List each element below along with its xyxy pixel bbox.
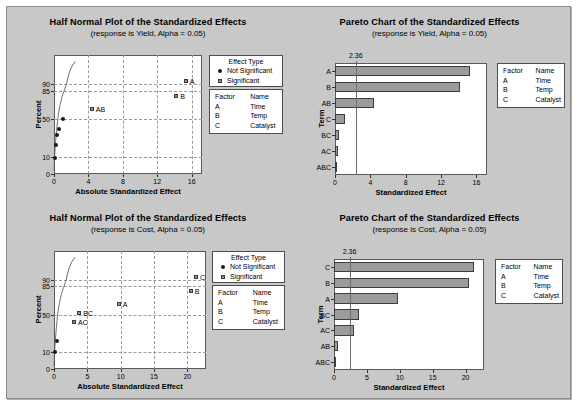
- factor-legend-factor: A: [496, 272, 524, 282]
- data-point-significant[interactable]: [117, 302, 121, 306]
- factor-legend-row: ATime: [498, 76, 564, 86]
- factor-legend-factor: C: [498, 95, 526, 105]
- graph-sheet: Half Normal Plot of the Standardized Eff…: [6, 6, 571, 399]
- bar[interactable]: [335, 98, 374, 109]
- axis-tick-y: [331, 362, 334, 363]
- axis-tick-x: [466, 370, 467, 373]
- data-point-significant[interactable]: [72, 320, 76, 324]
- bar[interactable]: [335, 162, 337, 173]
- bar[interactable]: [335, 114, 345, 125]
- data-point-not-significant[interactable]: [57, 127, 61, 131]
- axis-tick-label-x: 20: [177, 373, 197, 380]
- data-point-not-significant[interactable]: [55, 133, 59, 137]
- axis-tick-label-y: A: [311, 68, 331, 75]
- axis-tick-x: [154, 369, 155, 372]
- data-point-significant[interactable]: [90, 107, 94, 111]
- factor-legend-name: Catalyst: [524, 291, 562, 301]
- factor-legend: FactorNameATimeBTempCCatalyst: [495, 259, 563, 304]
- bar[interactable]: [335, 146, 338, 157]
- data-point-not-significant[interactable]: [55, 339, 59, 343]
- plot-frame: [335, 63, 487, 175]
- factor-legend-row: BTemp: [210, 111, 282, 121]
- data-point-label: B: [180, 92, 185, 99]
- data-point-not-significant[interactable]: [53, 350, 57, 354]
- effect-type-legend: Effect TypeNot SignificantSignificant: [212, 251, 285, 283]
- axis-tick-label-x: 15: [423, 374, 443, 381]
- factor-legend-name: Time: [243, 298, 284, 308]
- bar[interactable]: [334, 341, 338, 351]
- bar[interactable]: [334, 357, 336, 367]
- factor-legend-name: Temp: [243, 307, 284, 317]
- factor-legend-factor: C: [213, 317, 243, 327]
- axis-tick-y: [331, 267, 334, 268]
- factor-legend-name: Catalyst: [526, 95, 564, 105]
- effect-type-legend-label: Not Significant: [227, 262, 275, 271]
- effect-type-legend-row: Significant: [210, 76, 282, 86]
- factor-legend-name: Time: [240, 102, 282, 112]
- factor-legend-row: CCatalyst: [496, 291, 562, 301]
- factor-legend-factor: A: [498, 76, 526, 86]
- axis-tick-label-x: 5: [357, 374, 377, 381]
- axis-tick-y: [332, 119, 335, 120]
- factor-legend-table: FactorNameATimeBTempCCatalyst: [498, 66, 564, 104]
- factor-legend-row: BTemp: [498, 85, 564, 95]
- data-point-significant[interactable]: [194, 275, 198, 279]
- effect-type-legend-row: Not Significant: [213, 262, 284, 272]
- axis-tick-x: [433, 370, 434, 373]
- factor-legend-header-row: FactorName: [498, 66, 564, 76]
- axis-tick-x: [121, 369, 122, 372]
- effect-type-legend-label: Not Significant: [224, 66, 272, 75]
- axis-tick-y: [331, 330, 334, 331]
- panel-pareto-yield: Pareto Chart of the Standardized Effects…: [289, 7, 570, 203]
- bar[interactable]: [334, 278, 469, 288]
- reference-line-label: 2.36: [349, 52, 363, 59]
- bar[interactable]: [335, 82, 460, 93]
- bar[interactable]: [335, 130, 339, 141]
- axis-tick-x: [370, 175, 371, 178]
- axis-tick-label-y: 0: [30, 366, 50, 373]
- effect-type-legend-row: Significant: [213, 272, 284, 282]
- factor-legend-header: Factor: [498, 66, 526, 76]
- data-point-not-significant[interactable]: [54, 143, 58, 147]
- axis-tick-label-x: 10: [111, 373, 131, 380]
- bar[interactable]: [334, 325, 354, 335]
- factor-legend-name: Temp: [240, 111, 282, 121]
- factor-legend-table: FactorNameATimeBTempCCatalyst: [210, 92, 282, 130]
- plot-area-pareto-yield: ABABCBCACABC0481216Standardized EffectTe…: [289, 7, 570, 203]
- axis-tick-label-y: AC: [311, 148, 331, 155]
- factor-legend-header: Name: [526, 66, 564, 76]
- factor-legend-name: Catalyst: [243, 317, 284, 327]
- axis-tick-label-y: ABC: [310, 359, 330, 366]
- axis-tick-label-y: 10: [30, 348, 50, 355]
- effect-type-legend-title: Effect Type: [210, 56, 282, 66]
- data-point-significant[interactable]: [189, 289, 193, 293]
- bar[interactable]: [334, 293, 398, 303]
- data-point-not-significant[interactable]: [53, 156, 57, 160]
- bar[interactable]: [334, 262, 474, 272]
- data-point-significant[interactable]: [184, 79, 188, 83]
- factor-legend: FactorNameATimeBTempCCatalyst: [212, 285, 285, 330]
- factor-legend-header: Name: [243, 288, 284, 298]
- factor-legend-factor: C: [496, 291, 524, 301]
- axis-title-y: Percent: [34, 280, 43, 340]
- plot-area-halfnormal-yield: 0481216010508590Absolute Standardized Ef…: [7, 7, 289, 203]
- axis-tick-label-x: 10: [390, 374, 410, 381]
- factor-legend-name: Temp: [526, 85, 564, 95]
- axis-title-y: Percent: [34, 84, 43, 144]
- data-point-significant[interactable]: [77, 311, 81, 315]
- axis-title-x: Standardized Effect: [334, 383, 484, 392]
- axis-tick-label-x: 8: [113, 178, 133, 185]
- data-point-not-significant[interactable]: [61, 117, 65, 121]
- bar[interactable]: [334, 309, 359, 319]
- axis-tick-x: [157, 174, 158, 177]
- plot-area-halfnormal-cost: 05101520010508590Absolute Standardized E…: [7, 203, 289, 398]
- axis-tick-label-x: 12: [431, 179, 451, 186]
- factor-legend-header: Factor: [210, 92, 240, 102]
- data-point-label: A: [190, 78, 195, 85]
- axis-tick-label-x: 4: [360, 179, 380, 186]
- axis-title-x: Standardized Effect: [335, 188, 487, 197]
- data-point-significant[interactable]: [174, 94, 178, 98]
- data-point-label: A: [123, 301, 128, 308]
- factor-legend-factor: B: [210, 111, 240, 121]
- plot-area-pareto-cost: CBABCACABABC05101520Standardized EffectT…: [289, 203, 570, 398]
